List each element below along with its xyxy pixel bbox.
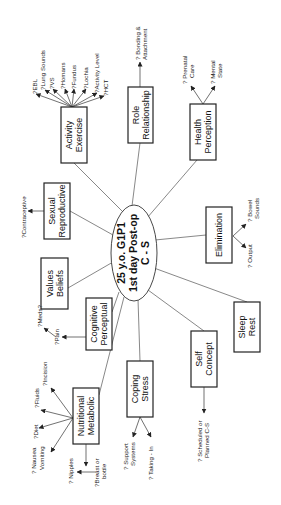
node-sexual-reproductive: Sexual Reproductive <box>44 183 70 239</box>
leaf-vs: ?VS <box>48 77 55 89</box>
svg-text:Beliefs: Beliefs <box>55 269 65 297</box>
leaf-meds: ?Meds? <box>36 304 43 327</box>
svg-text:? Bowel: ? Bowel <box>246 200 253 222</box>
svg-text:Relationship: Relationship <box>141 90 151 140</box>
node-self-concept: Self Concept <box>191 331 217 387</box>
coping-leaf-labels: ? Support Systems ? Taking - In <box>122 442 154 480</box>
elimination-leaf-arrows <box>233 224 246 248</box>
svg-text:?Breast or: ?Breast or <box>93 458 100 487</box>
svg-text:? Bonding &: ? Bonding & <box>134 25 141 60</box>
node-health-perception: Health Perception <box>190 104 216 160</box>
center-line3: C - S <box>139 241 151 265</box>
concept-map: 25 y.o. G1P1 1st day Post-op C - S Activ… <box>0 0 281 505</box>
svg-text:Sounds: Sounds <box>253 198 260 219</box>
center-node: 25 y.o. G1P1 1st day Post-op C - S <box>111 205 157 301</box>
svg-text:Values: Values <box>45 270 55 297</box>
svg-text:Exercise: Exercise <box>74 118 84 153</box>
svg-text:Systems: Systems <box>129 442 136 466</box>
health-leaf-arrows <box>191 86 215 104</box>
leaf-fundus: ?Fundus <box>70 65 77 89</box>
leaf-hct: ?HCT <box>102 80 109 96</box>
svg-text:Self: Self <box>194 351 204 367</box>
coping-leaf-arrows <box>133 417 151 437</box>
activity-leaf-labels: ?EBL ?Lung Sounds ?VS ?Homans ?Fundus ?L… <box>31 50 109 96</box>
node-elimination: Elimination <box>206 207 232 263</box>
svg-text:? Support: ? Support <box>122 443 129 470</box>
svg-text:? Nausea: ? Nausea <box>30 447 37 474</box>
svg-text:Nutritional: Nutritional <box>76 396 86 437</box>
svg-text:Metabolic: Metabolic <box>86 396 96 435</box>
node-values-beliefs: Values Beliefs <box>41 258 68 309</box>
svg-text:Coping: Coping <box>130 375 140 404</box>
svg-text:? Taking - In: ? Taking - In <box>147 446 154 480</box>
node-activity-exercise: Activity Exercise <box>61 107 87 163</box>
svg-text:Reproductive: Reproductive <box>57 184 67 237</box>
svg-text:Vomiting: Vomiting <box>38 446 45 470</box>
svg-text:? Scheduled or: ? Scheduled or <box>196 420 203 462</box>
node-nutritional-metabolic: Nutritional Metabolic <box>73 388 99 444</box>
leaf-nipples: ? Nipples <box>67 458 74 484</box>
leaf-contraceptive: ?Contraceptive <box>20 196 27 238</box>
svg-text:bottle: bottle <box>100 463 107 479</box>
svg-text:Elimination: Elimination <box>214 213 224 257</box>
leaf-fluids: ?Fluids <box>33 388 40 408</box>
node-role-relationship: Role Relationship <box>128 87 153 143</box>
leaf-incision: ?Incision <box>41 361 48 386</box>
center-connectors <box>68 143 247 395</box>
svg-text:Rest: Rest <box>247 317 257 336</box>
svg-text:Perception: Perception <box>203 110 213 153</box>
role-leaf-label: ? Bonding & Attachment <box>134 25 148 60</box>
svg-text:Perceptual: Perceptual <box>99 302 109 345</box>
node-sleep-rest: Sleep Rest <box>234 302 260 352</box>
node-cognitive-perceptual: Cognitive Perceptual <box>86 298 112 350</box>
svg-text:Activity: Activity <box>64 120 74 149</box>
leaf-homans: ?Homans <box>59 63 66 89</box>
node-coping-stress: Coping Stress <box>127 361 153 417</box>
svg-text:Concept: Concept <box>204 342 214 376</box>
leaf-lochia: ?Lochia <box>82 67 89 89</box>
center-line1: 25 y.o. G1P1 <box>115 222 127 284</box>
leaf-ebl: ?EBL <box>31 78 38 94</box>
leaf-pain: ?Pain <box>53 329 60 345</box>
svg-text:Planned C-S: Planned C-S <box>203 423 210 458</box>
cognitive-leaf-arrows <box>44 328 86 337</box>
svg-text:State: State <box>216 63 223 78</box>
elimination-leaf-labels: ? Bowel Sounds ? Output <box>246 198 260 268</box>
svg-text:Health: Health <box>193 119 203 145</box>
svg-text:Care: Care <box>188 64 195 78</box>
self-leaf-label: ? Scheduled or Planned C-S <box>196 420 210 462</box>
svg-text:Role: Role <box>131 106 141 125</box>
leaf-diet: ?Diet <box>32 424 39 439</box>
center-line2: 1st day Post-op <box>127 214 139 292</box>
svg-text:Attachment: Attachment <box>141 28 148 60</box>
svg-text:Sexual: Sexual <box>47 197 57 225</box>
leaf-activity-level: ?Activity Level <box>93 53 100 93</box>
svg-text:? Output: ? Output <box>246 244 253 268</box>
svg-text:Sleep: Sleep <box>237 315 247 338</box>
health-leaf-labels: ? Prenatal Care ? Mental State <box>181 56 223 84</box>
svg-text:? Prenatal: ? Prenatal <box>181 56 188 84</box>
svg-text:? Mental: ? Mental <box>209 60 216 84</box>
svg-text:Cognitive: Cognitive <box>89 305 99 343</box>
svg-text:Stress: Stress <box>140 376 150 402</box>
leaf-lung-sounds: ?Lung Sounds <box>39 50 46 90</box>
cognitive-leaf-labels: ?Pain ?Meds? <box>36 304 60 345</box>
